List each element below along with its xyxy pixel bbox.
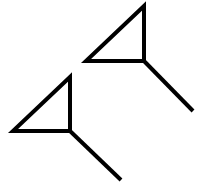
- arrow-glyph-bottom-left-icon: [13, 77, 121, 180]
- diagram-canvas: [0, 0, 202, 193]
- arrow-glyph-top-right-icon: [86, 6, 193, 111]
- diagonal-tail: [144, 61, 193, 111]
- triangle-head: [86, 6, 144, 61]
- diagonal-tail: [70, 131, 121, 180]
- triangle-head: [13, 77, 70, 131]
